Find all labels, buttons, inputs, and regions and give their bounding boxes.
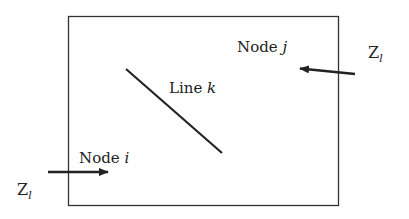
line-k-label: Line k (169, 79, 216, 97)
arrow-right-impedance (300, 69, 355, 75)
network-boundary-box (69, 17, 339, 206)
node-j-label: Node j (237, 38, 287, 56)
diagram-canvas: Line k Node j Zl Node i Zl (0, 0, 409, 219)
node-i-label: Node i (79, 149, 129, 167)
impedance-right-label: Zl (368, 43, 383, 65)
impedance-left-label: Zl (17, 180, 32, 202)
